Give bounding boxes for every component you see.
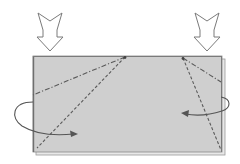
right-peak-point xyxy=(182,57,185,60)
right-push-arrow-icon xyxy=(194,13,220,51)
diagram-canvas xyxy=(0,0,240,164)
left-push-arrow-icon xyxy=(37,13,63,51)
paper-sheet xyxy=(33,56,222,152)
origami-diagram xyxy=(0,0,240,164)
left-peak-point xyxy=(124,56,127,59)
